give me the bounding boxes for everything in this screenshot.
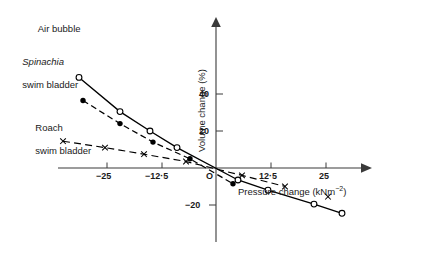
- x-axis-arrowhead: [361, 163, 372, 173]
- annotation-roach-line1: Roach: [35, 122, 62, 133]
- x-axis-title-close: ): [343, 186, 346, 197]
- x-ticklabel-plus25: 25: [319, 171, 329, 181]
- x-axis-title-main: Pressure change (kNm: [238, 186, 335, 197]
- air-bubble-point: [311, 201, 317, 207]
- x-origin-label: O: [206, 171, 213, 181]
- annotation-spinachia: Spinachia swim bladder: [17, 44, 78, 91]
- spinachia-point: [117, 121, 122, 126]
- x-ticklabel-minus25: −25: [96, 171, 111, 181]
- x-axis-title-exponent: −2: [335, 185, 343, 192]
- air-bubble-point: [339, 210, 345, 216]
- annotation-spinachia-rest: swim bladder: [22, 79, 78, 90]
- spinachia-point: [230, 181, 235, 186]
- air-bubble-point: [174, 145, 180, 151]
- x-axis-title: Pressure change (kNm−2): [238, 185, 346, 197]
- y-axis-title: Volume change (%): [196, 69, 207, 152]
- x-ticklabel-plus12point5: 12·5: [259, 171, 277, 181]
- spinachia-point: [80, 98, 85, 103]
- annotation-roach: Roach swim bladder: [30, 110, 91, 157]
- annotation-roach-line2: swim bladder: [35, 145, 91, 156]
- air-bubble-point: [147, 128, 153, 134]
- spinachia-point: [150, 139, 155, 144]
- annotation-spinachia-genus: Spinachia: [22, 56, 64, 67]
- y-ticklabel-20: 20: [199, 126, 209, 136]
- y-axis-arrowhead: [211, 17, 221, 27]
- y-ticklabel-40: 40: [199, 89, 209, 99]
- annotation-air-bubble-label: Air bubble: [38, 23, 81, 34]
- x-ticklabel-minus12point5: −12·5: [145, 171, 168, 181]
- y-ticklabel-minus20: −20: [185, 200, 200, 210]
- annotation-air-bubble: Air bubble: [33, 11, 81, 35]
- air-bubble-point: [117, 109, 123, 115]
